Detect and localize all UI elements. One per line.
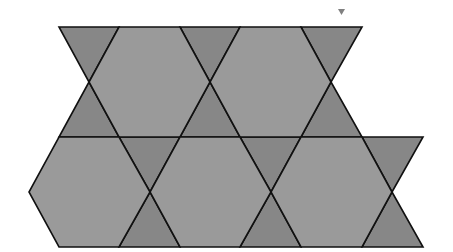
tiling-diagram bbox=[0, 0, 453, 252]
marker-triangle-icon bbox=[338, 9, 345, 15]
tiling-svg bbox=[0, 0, 453, 252]
